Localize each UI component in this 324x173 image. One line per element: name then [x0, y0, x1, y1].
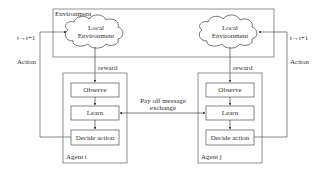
left-action-label: Action [17, 58, 36, 66]
right-time-step-label: t→t+1 [290, 34, 308, 42]
right-cloud-line1: Local [212, 24, 248, 32]
left-cloud-line1: Local [78, 24, 114, 32]
left-action-feedback [40, 32, 71, 137]
agent-j-observe: Observe [206, 86, 254, 94]
left-time-step-label: t→t+1 [17, 34, 35, 42]
environment-label: Environment [55, 10, 92, 18]
agent-j-learn: Learn [206, 109, 254, 117]
left-reward-label: reward [98, 64, 117, 72]
agent-i-learn: Learn [71, 109, 119, 117]
right-action-label: Action [290, 58, 309, 66]
agent-i-observe: Observe [71, 86, 119, 94]
agent-j-label: Agent j [201, 153, 222, 161]
agent-j-decide-action: Decide action [206, 134, 254, 142]
agent-i-label: Agent i [66, 153, 87, 161]
exchange-line2: exchange [130, 104, 196, 112]
right-action-feedback [254, 32, 287, 137]
agent-i-decide-action: Decide action [71, 134, 119, 142]
right-reward-label: reward [233, 64, 252, 72]
left-cloud-line2: Environment [72, 32, 120, 40]
diagram-canvas [0, 0, 324, 173]
right-cloud-line2: Environment [206, 32, 254, 40]
